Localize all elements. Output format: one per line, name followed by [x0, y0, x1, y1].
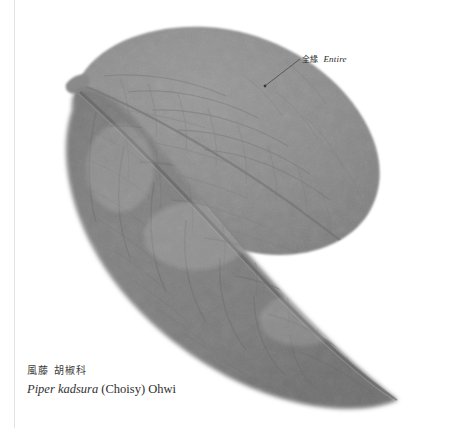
caption-common-name: 風藤 胡椒科 — [27, 363, 176, 378]
specimen-caption: 風藤 胡椒科 Piper kadsura (Choisy) Ohwi — [27, 363, 176, 398]
caption-binomial: Piper kadsura — [27, 382, 98, 396]
specimen-page: 全緣Entire 風藤 胡椒科 Piper kadsura (Choisy) O… — [0, 0, 455, 428]
annotation-label-latin: Entire — [323, 54, 346, 64]
annotation-label-cjk: 全緣 — [302, 55, 318, 64]
caption-scientific-name: Piper kadsura (Choisy) Ohwi — [27, 380, 176, 398]
caption-authority: (Choisy) Ohwi — [101, 382, 176, 396]
annotation-label-entire: 全緣Entire — [302, 53, 347, 64]
